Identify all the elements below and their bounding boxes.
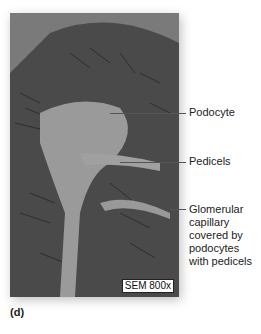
panel-label: (d): [10, 306, 24, 318]
micrograph-image: [10, 13, 179, 297]
leader-line-glomerular: [170, 209, 186, 210]
label-pedicels: Pedicels: [189, 155, 231, 168]
label-glomerular-capillary: Glomerular capillary covered by podocyte…: [189, 203, 259, 268]
leader-line-pedicels: [120, 162, 186, 163]
scale-bar: SEM 800x: [122, 279, 174, 293]
label-podocyte: Podocyte: [189, 106, 235, 119]
leader-line-podocyte: [110, 113, 186, 114]
sem-micrograph: SEM 800x: [10, 13, 179, 297]
